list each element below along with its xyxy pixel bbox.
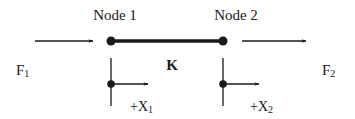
diagram-svg: Node 1 Node 2 K F1 F2 +X1 +X2 (0, 0, 355, 119)
node-2-dot (219, 37, 228, 46)
displacement-1-label: +X1 (130, 99, 153, 115)
node-1-label: Node 1 (93, 7, 137, 23)
spring-element-diagram: Node 1 Node 2 K F1 F2 +X1 +X2 (0, 0, 355, 119)
node-1-dot (107, 37, 116, 46)
force-2-label: F2 (322, 62, 335, 79)
node-2-label: Node 2 (214, 7, 258, 23)
force-1-label: F1 (16, 62, 29, 79)
stiffness-label: K (166, 57, 178, 73)
displacement-2-label: +X2 (250, 99, 273, 115)
